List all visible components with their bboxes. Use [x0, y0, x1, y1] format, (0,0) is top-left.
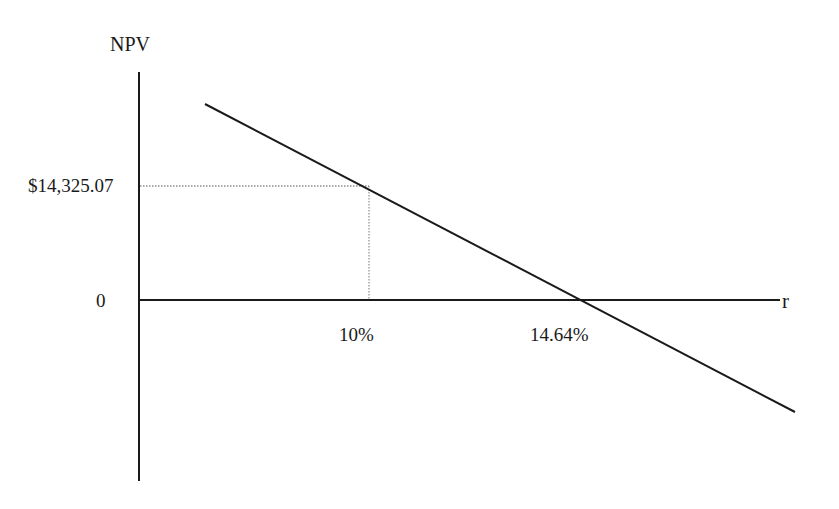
x-axis-label: r [782, 291, 789, 312]
y-axis-label: NPV [110, 34, 150, 54]
y-tick-zero: 0 [96, 291, 106, 310]
npv-chart [0, 0, 839, 509]
x-tick-irr: 14.64% [530, 325, 589, 344]
npv-profile-line [205, 104, 795, 412]
x-tick-10-percent: 10% [339, 325, 374, 344]
y-tick-npv-value: $14,325.07 [28, 176, 114, 195]
